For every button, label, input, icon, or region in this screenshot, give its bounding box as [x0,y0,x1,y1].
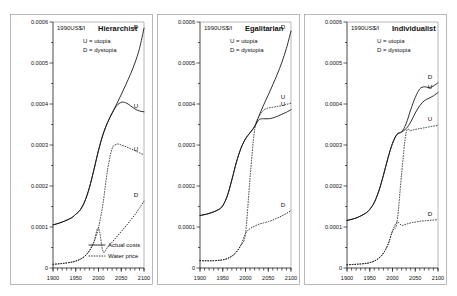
y-tick-label: 0.0003 [31,142,48,148]
key-dystopia: D = dystopia [83,47,117,53]
axis-lines [53,22,144,268]
figure-root: 00.00010.00020.00030.00040.00050.0006190… [0,0,457,296]
y-tick-label: 0.0002 [31,183,48,189]
y-tick-label: 0.0001 [178,224,195,230]
panel-border [305,15,447,285]
legend: Actual costsWater price [89,242,140,259]
y-tick-label: 0 [192,265,195,271]
y-tick-label: 0 [339,265,342,271]
y-tick-label: 0.0004 [178,101,195,107]
x-tick-label: 2100 [285,275,297,281]
panel-title: Individualist [392,24,436,33]
y-tick-label: 0.0001 [31,224,48,230]
x-tick-label: 1900 [194,275,206,281]
unit-label: 1990US$/l [204,25,232,31]
panel-title: Hierarchist [98,24,138,33]
series-group [200,31,291,261]
series-actual-costs-utopia [53,102,144,225]
y-axis-ticks: 00.00010.00020.00030.00040.00050.0006 [325,19,347,271]
y-tick-label: 0.0006 [178,19,195,25]
y-tick-label: 0.0004 [325,101,342,107]
unit-label: 1990US$/l [57,25,85,31]
x-tick-label: 1950 [70,275,82,281]
x-tick-label: 2100 [432,275,444,281]
series-end-label-u: U [134,145,138,152]
key-dystopia: D = dystopia [230,47,264,53]
x-axis-ticks: 19001950200020502100 [194,268,297,281]
series-end-label-u: U [281,100,285,107]
key-utopia: U = utopia [83,38,111,44]
legend-label-water-price: Water price [108,253,139,259]
series-end-label-d: D [281,201,286,208]
y-tick-label: 0.0002 [178,183,195,189]
x-tick-label: 2050 [262,275,274,281]
plot-inner-frame [53,22,144,268]
series-actual-costs-utopia [200,110,291,216]
chart-panel-individualist: 00.00010.00020.00030.00040.00050.0006190… [302,0,449,296]
chart-panel-hierarchist: 00.00010.00020.00030.00040.00050.0006190… [8,0,155,296]
series-end-label-d: D [134,191,139,198]
y-tick-label: 0.0006 [31,19,48,25]
series-water-price-utopia [200,103,291,261]
series-actual-costs-dystopia [200,31,291,216]
series-end-label-u: U [428,83,432,90]
panel-title: Egalitarian [245,24,284,33]
x-tick-label: 1900 [47,275,59,281]
panel-canvas-hierarchist: 00.00010.00020.00030.00040.00050.0006190… [8,0,155,296]
x-tick-label: 2050 [409,275,421,281]
series-end-label-d: D [428,210,433,217]
series-end-label-u: U [281,93,285,100]
key-dystopia: D = dystopia [377,47,411,53]
key-utopia: U = utopia [230,38,258,44]
unit-label: 1990US$/l [351,25,379,31]
legend-label-actual-costs: Actual costs [108,242,140,248]
panel-canvas-individualist: 00.00010.00020.00030.00040.00050.0006190… [302,0,449,296]
y-tick-label: 0.0003 [178,142,195,148]
x-tick-label: 2000 [239,275,251,281]
x-axis-ticks: 19001950200020502100 [47,268,150,281]
x-tick-label: 1950 [364,275,376,281]
x-axis-ticks: 19001950200020502100 [341,268,444,281]
x-tick-label: 2000 [92,275,104,281]
chart-panel-egalitarian: 00.00010.00020.00030.00040.00050.0006190… [155,0,302,296]
key-utopia: U = utopia [377,38,405,44]
y-tick-label: 0 [45,265,48,271]
series-actual-costs-dystopia [347,83,438,221]
series-group [347,83,438,265]
panel-border [158,15,300,285]
series-end-label-u: U [428,115,432,122]
series-actual-costs-utopia [347,93,438,221]
x-tick-label: 2000 [386,275,398,281]
y-tick-label: 0.0003 [325,142,342,148]
series-end-labels: DUUD [281,23,286,208]
y-tick-label: 0.0005 [178,60,195,66]
x-tick-label: 1900 [341,275,353,281]
y-axis-ticks: 00.00010.00020.00030.00040.00050.0006 [178,19,200,271]
y-tick-label: 0.0001 [325,224,342,230]
x-tick-label: 1950 [217,275,229,281]
series-end-labels: DUUD [428,73,433,217]
y-tick-label: 0.0006 [325,19,342,25]
x-tick-label: 2100 [138,275,150,281]
y-tick-label: 0.0004 [31,101,48,107]
series-water-price-dystopia [347,220,438,265]
y-tick-label: 0.0005 [325,60,342,66]
x-tick-label: 2050 [115,275,127,281]
axis-lines [347,22,438,268]
series-end-label-d: D [428,73,433,80]
y-tick-label: 0.0002 [325,183,342,189]
series-actual-costs-dystopia [53,28,144,225]
series-water-price-utopia [347,125,438,264]
panel-canvas-egalitarian: 00.00010.00020.00030.00040.00050.0006190… [155,0,302,296]
y-tick-label: 0.0005 [31,60,48,66]
series-end-label-u: U [134,102,138,109]
y-axis-ticks: 00.00010.00020.00030.00040.00050.0006 [31,19,53,271]
series-group [53,28,144,264]
plot-inner-frame [347,22,438,268]
